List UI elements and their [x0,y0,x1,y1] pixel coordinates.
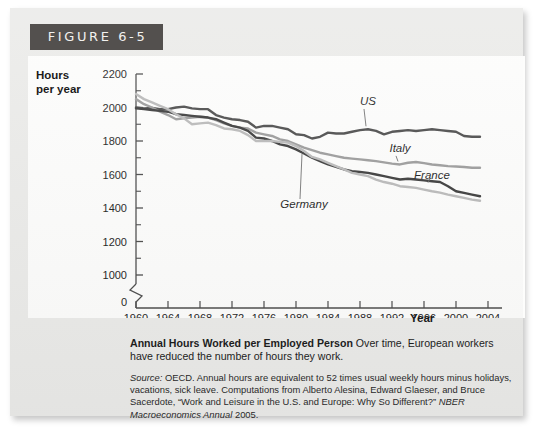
chart-series-lines [136,94,480,201]
y-tick-label: 1400 [103,202,127,214]
x-tick-label: 1980 [284,312,308,318]
series-line-germany [136,94,480,201]
x-tick-label: 1984 [316,312,340,318]
figure-caption: Annual Hours Worked per Employed Person … [130,337,512,421]
x-tick-label: 1988 [348,312,372,318]
caption-main-text: Annual Hours Worked per Employed Person … [130,337,512,364]
x-tick-label: 2000 [444,312,468,318]
y-tick-label-zero: 0 [121,296,127,308]
y-axis: 22002000180016001400120010000 [103,68,143,308]
x-tick-label: 1992 [380,312,404,318]
series-label-italy: Italy [389,142,411,154]
series-label-us: US [360,95,376,107]
y-axis-title: Hours per year [36,69,108,96]
series-line-us [136,107,480,139]
series-label-france: France [414,169,450,181]
figure-number-badge: FIGURE 6-5 [30,24,163,50]
x-tick-label: 1968 [188,312,212,318]
y-tick-label: 2000 [103,102,127,114]
figure-root: FIGURE 6-5 22002000180016001400120010000… [0,0,544,433]
y-tick-label: 1200 [103,236,127,248]
x-tick-label: 1960 [124,312,148,318]
source-year: 2005. [232,409,258,420]
caption-title: Annual Hours Worked per Employed Person [130,337,353,349]
y-tick-label: 1000 [103,269,127,281]
x-axis-title: Year [410,312,434,324]
x-tick-label: 1964 [156,312,180,318]
figure-panel: FIGURE 6-5 22002000180016001400120010000… [10,8,523,416]
caption-source-text: Source: OECD. Annual hours are equivalen… [130,372,512,421]
series-label-germany: Germany [280,198,329,210]
source-lead: Source: [130,372,162,383]
y-axis-title-line2: per year [36,83,108,97]
y-tick-label: 1800 [103,135,127,147]
x-axis: 1960196419681972197619801984198819921996… [124,301,502,318]
x-tick-label: 1976 [252,312,276,318]
x-tick-label: 2004 [476,312,500,318]
y-axis-title-line1: Hours [36,69,108,83]
series-line-italy [136,99,480,168]
x-tick-label: 1972 [220,312,244,318]
y-tick-label: 1600 [103,169,127,181]
